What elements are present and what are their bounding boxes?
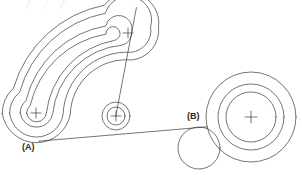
- middle-boss-center-mark-icon: [111, 111, 121, 121]
- left-end-center-mark-icon: [31, 108, 41, 118]
- technical-drawing-canvas: (A) (B): [0, 0, 302, 175]
- slot-contour-mid-inner: [20, 15, 132, 127]
- drawing-vector-layer: [0, 0, 302, 175]
- callout-label-a: (A): [22, 143, 35, 152]
- leader-line-middle-to-top: [116, 8, 137, 117]
- right-boss-center-mark-icon: [245, 111, 257, 123]
- callout-label-b: (B): [187, 112, 200, 121]
- small-circle-b: [178, 127, 220, 169]
